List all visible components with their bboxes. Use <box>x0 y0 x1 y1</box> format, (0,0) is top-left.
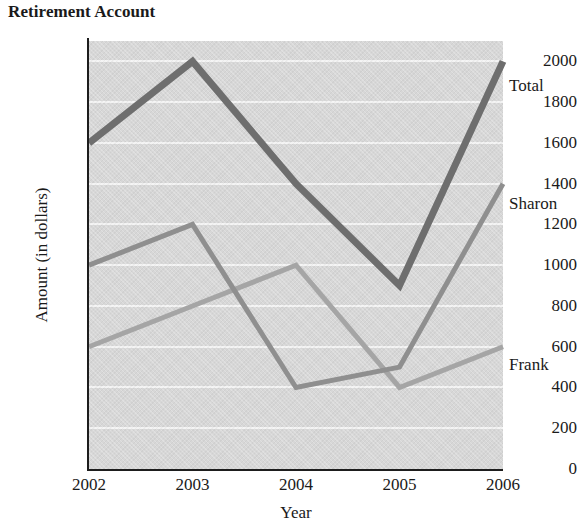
gridline <box>89 427 503 429</box>
y-tick-label: 400 <box>493 378 577 395</box>
series-label-total: Total <box>509 76 544 96</box>
y-tick-label: 800 <box>493 297 577 314</box>
gridline <box>89 346 503 348</box>
gridline <box>89 101 503 103</box>
x-tick-label: 2002 <box>49 475 129 495</box>
gridline <box>89 142 503 144</box>
chart-figure: Retirement Account 020040060080010001200… <box>0 0 577 524</box>
gridline <box>89 60 503 62</box>
y-tick-label: 200 <box>493 419 577 436</box>
y-axis-title: Amount (in dollars) <box>32 130 52 380</box>
x-axis-line <box>87 469 503 471</box>
series-label-sharon: Sharon <box>509 194 557 214</box>
x-axis-title: Year <box>89 503 503 523</box>
x-tick-label: 2004 <box>256 475 336 495</box>
y-tick-label: 1400 <box>493 175 577 192</box>
gridline <box>89 305 503 307</box>
y-tick-label: 600 <box>493 338 577 355</box>
y-tick-label: 1200 <box>493 215 577 232</box>
x-tick-label: 2006 <box>463 475 543 495</box>
plot-area-background <box>89 41 503 469</box>
x-tick-label: 2003 <box>153 475 233 495</box>
gridline <box>89 386 503 388</box>
gridline <box>89 183 503 185</box>
gridline <box>89 223 503 225</box>
x-tick-label: 2005 <box>360 475 440 495</box>
y-axis-line <box>87 38 89 471</box>
y-tick-label: 2000 <box>493 52 577 69</box>
y-tick-label: 1600 <box>493 134 577 151</box>
chart-title: Retirement Account <box>8 2 155 22</box>
series-label-frank: Frank <box>509 355 549 375</box>
gridline <box>89 264 503 266</box>
y-tick-label: 1000 <box>493 256 577 273</box>
